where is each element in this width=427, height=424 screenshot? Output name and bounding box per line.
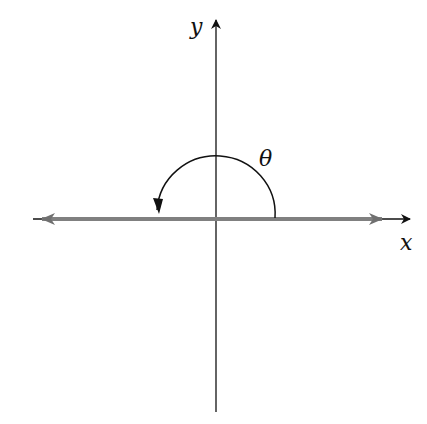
x-axis-label: x	[400, 230, 413, 255]
angle-label: θ	[259, 146, 272, 171]
angle-diagram: y x θ	[0, 0, 427, 424]
arc-arrowhead-icon	[153, 198, 163, 214]
y-axis-label: y	[189, 14, 203, 39]
